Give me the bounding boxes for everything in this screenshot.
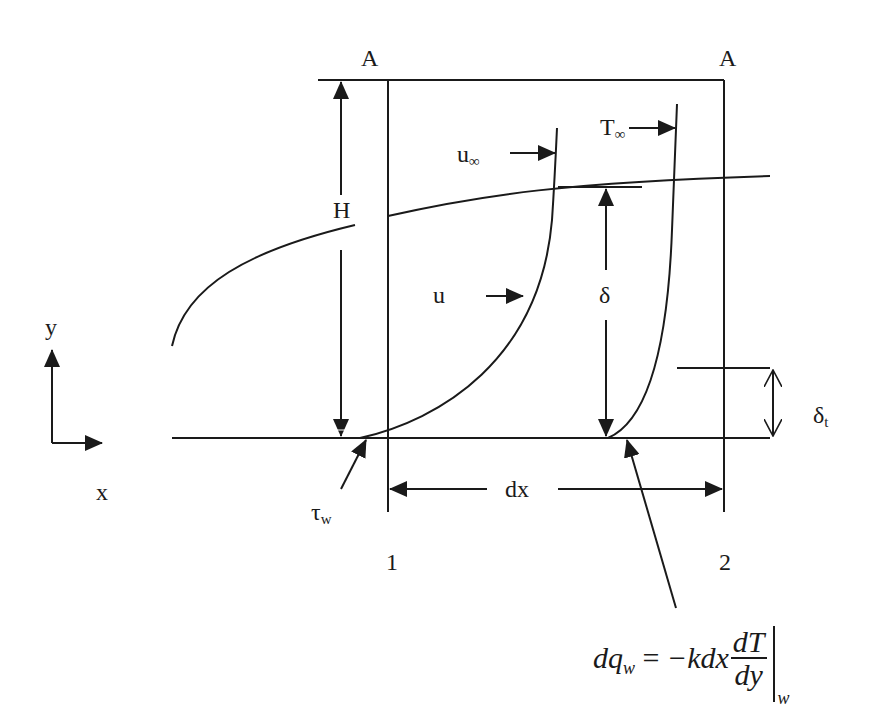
equation-lhs-sub: w	[623, 658, 635, 679]
evaluation-bar	[773, 626, 775, 702]
velocity-label: u	[433, 283, 445, 307]
station-2-label: 2	[719, 550, 731, 574]
boundary-layer-diagram	[0, 0, 873, 721]
delta-t-label: δt	[813, 403, 828, 430]
u-infinity-label: u∞	[457, 142, 480, 169]
tau-w-arrow	[341, 440, 366, 489]
heat-flux-arrow	[627, 440, 676, 608]
section-a-right-label: A	[719, 46, 736, 70]
tau-w-label: τw	[311, 500, 332, 527]
temperature-profile-curve	[608, 104, 677, 438]
velocity-profile-curve	[360, 128, 557, 438]
dx-label: dx	[505, 477, 529, 501]
fraction-denominator: dy	[732, 659, 764, 691]
height-label: H	[333, 198, 350, 222]
axis-x-label: x	[96, 480, 108, 504]
t-infinity-label: T∞	[600, 115, 625, 142]
boundary-layer-edge	[172, 225, 355, 346]
section-a-left-label: A	[361, 46, 378, 70]
equation-rhs-prefix: −kdx	[667, 641, 729, 675]
evaluation-sub: w	[778, 688, 790, 709]
equation-fraction: dT dy	[731, 626, 767, 691]
equation-lhs: dq	[593, 641, 623, 675]
heat-flux-equation: dq w = −kdx dT dy w	[593, 620, 790, 696]
boundary-layer-edge-right	[388, 176, 770, 216]
axis-y-label: y	[45, 315, 57, 339]
fraction-numerator: dT	[731, 626, 767, 660]
station-1-label: 1	[386, 550, 398, 574]
equation-equals: =	[635, 641, 667, 675]
delta-label: δ	[599, 283, 610, 307]
